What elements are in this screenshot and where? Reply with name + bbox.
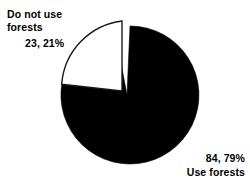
pie-slice-do-not-use-forests	[62, 21, 122, 91]
pie-label-use-forests-line1: Use forests	[187, 166, 245, 179]
pie-label-use-forests: 84, 79% Use forests	[187, 152, 245, 179]
pie-chart-figure: Do not use forests 23, 21% 84, 79% Use f…	[0, 0, 250, 186]
pie-label-do-not-use-forests: Do not use forests 23, 21%	[7, 8, 64, 50]
pie-label-do-not-use-forests-line1: Do not use	[7, 8, 64, 21]
pie-label-do-not-use-forests-line2: forests	[7, 21, 64, 34]
pie-label-use-forests-value: 84, 79%	[187, 152, 245, 166]
pie-label-do-not-use-forests-value: 23, 21%	[7, 34, 64, 50]
